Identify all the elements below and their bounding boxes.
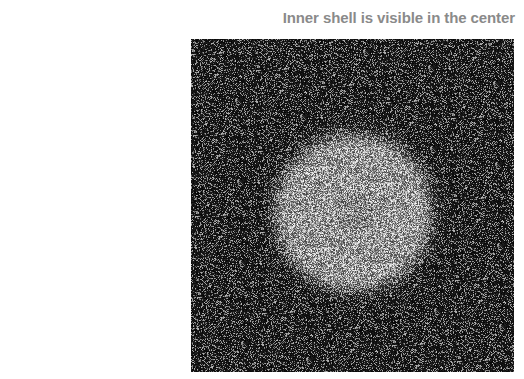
noise-canvas <box>191 39 514 372</box>
noise-image <box>191 39 514 372</box>
figure-title: Inner shell is visible in the center <box>283 9 515 26</box>
